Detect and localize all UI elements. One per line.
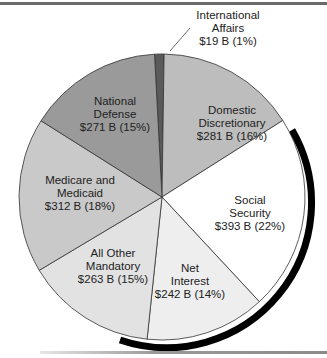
label-all-other-mandatory: All OtherMandatory$263 B (15%) — [78, 247, 148, 286]
label-international-affairs: InternationalAffairs$19 B (1%) — [196, 9, 259, 48]
leader-line — [170, 28, 190, 51]
label-national-defense: NationalDefense$271 B (15%) — [80, 95, 150, 134]
label-medicare-medicaid: Medicare andMedicaid$312 B (18%) — [45, 174, 115, 213]
label-net-interest: NetInterest$242 B (14%) — [155, 262, 225, 301]
label-social-security: SocialSecurity$393 B (22%) — [215, 194, 285, 233]
bottom-rule — [40, 351, 327, 354]
label-domestic-discretionary: DomesticDiscretionary$281 B (16%) — [197, 104, 267, 143]
